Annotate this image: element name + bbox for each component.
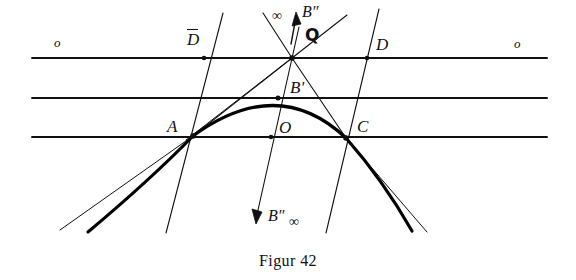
- figure-drawing: [0, 0, 576, 280]
- label-infinity-bottom: ∞: [289, 215, 299, 229]
- label-b-double-prime-bottom: B″: [268, 208, 284, 224]
- label-c: C: [357, 118, 368, 135]
- label-q: Q: [305, 27, 319, 44]
- label-infinity-top: ∞: [272, 9, 282, 23]
- point-dot-d: [365, 56, 370, 61]
- conic-arc-main: [193, 105, 346, 138]
- figure-42-container: o o D D Q ∞ B″ B' A O C B″ ∞ Figur 42: [0, 0, 576, 280]
- label-o-right: o: [514, 37, 521, 50]
- point-dot-bprime: [276, 96, 281, 101]
- label-b-prime: B': [290, 79, 304, 96]
- point-dot-dbar: [202, 56, 207, 61]
- conic-branch-right: [346, 138, 412, 231]
- label-d-bar: D: [187, 31, 199, 48]
- point-dot-o: [269, 135, 274, 140]
- line-a-lower-left-guide: [60, 136, 193, 230]
- label-d-bar-text: D: [187, 31, 199, 48]
- conic-branch-left: [88, 136, 193, 232]
- figure-caption: Figur 42: [0, 252, 576, 270]
- arrow-head-down: [252, 209, 262, 224]
- label-a: A: [167, 118, 177, 135]
- point-dot-c: [343, 135, 349, 141]
- label-d: D: [376, 36, 388, 53]
- label-o-origin: O: [279, 119, 291, 136]
- label-o-left: o: [54, 36, 61, 49]
- arrow-head-up: [292, 12, 301, 26]
- point-dot-a: [190, 133, 196, 139]
- point-dot-q: [289, 55, 295, 61]
- label-b-double-prime-top: B″: [302, 4, 318, 20]
